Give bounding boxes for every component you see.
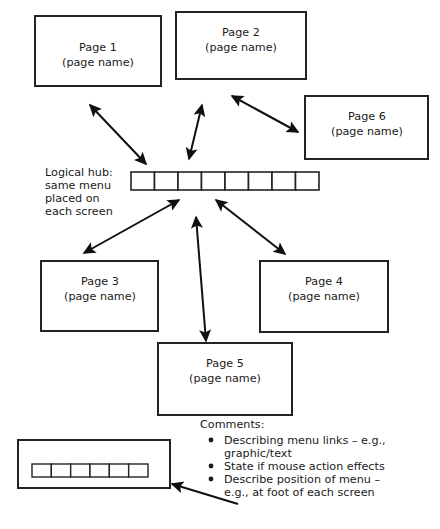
comment-item-3-line-2: e.g., at foot of each screen [224, 486, 375, 499]
hub-menu-cell-8[interactable] [296, 172, 320, 190]
logical-hub-label: Logical hub: same menu placed on each sc… [45, 166, 113, 218]
connector-page2-to-page6 [232, 96, 298, 132]
page4-title: Page 4 [305, 275, 343, 288]
hub-menu-cell-1[interactable] [131, 172, 155, 190]
comments-block: Comments: Describing menu links – e.g., … [200, 418, 386, 499]
screen-menu-cell-3[interactable] [71, 464, 90, 477]
page3-title: Page 3 [81, 275, 119, 288]
page1-subtitle: (page name) [62, 56, 134, 69]
page5-title: Page 5 [206, 357, 244, 370]
screen-menu-cell-4[interactable] [90, 464, 109, 477]
page-box-page5[interactable]: Page 5 (page name) [158, 343, 292, 415]
hub-menu-cell-5[interactable] [225, 172, 249, 190]
hub-menu-cell-2[interactable] [155, 172, 179, 190]
page-box-page4[interactable]: Page 4 (page name) [260, 261, 388, 332]
page4-subtitle: (page name) [288, 290, 360, 303]
hub-label-line-1: Logical hub: [45, 166, 113, 179]
page-box-page3[interactable]: Page 3 (page name) [41, 261, 158, 331]
page-box-page1[interactable]: Page 1 (page name) [35, 16, 161, 86]
page6-subtitle: (page name) [331, 125, 403, 138]
hub-menu-cell-7[interactable] [272, 172, 296, 190]
screen-menu-cell-6[interactable] [129, 464, 148, 477]
page6-title: Page 6 [348, 110, 386, 123]
comment-item-3-line-1: Describe position of menu – [224, 473, 380, 486]
page2-title: Page 2 [222, 26, 260, 39]
connector-hub-to-page2 [189, 105, 202, 159]
page2-subtitle: (page name) [205, 41, 277, 54]
comment-item-1-line-1: Describing menu links – e.g., [224, 434, 386, 447]
screen-example-box[interactable] [18, 440, 170, 488]
comment-item-2-line-1: State if mouse action effects [224, 460, 385, 473]
page-box-page6[interactable]: Page 6 (page name) [305, 96, 428, 159]
hub-menu-cell-3[interactable] [178, 172, 202, 190]
hub-label-line-2: same menu [45, 179, 111, 192]
screen-example-menu-bar[interactable] [32, 464, 148, 477]
connector-hub-to-page1 [90, 105, 146, 164]
comment-item-1-line-2: graphic/text [224, 447, 292, 460]
hub-menu-cell-6[interactable] [249, 172, 273, 190]
hub-label-line-3: placed on [45, 192, 100, 205]
page-box-page2[interactable]: Page 2 (page name) [176, 12, 306, 79]
bullet-icon [209, 438, 214, 443]
comments-heading: Comments: [200, 418, 264, 431]
page3-subtitle: (page name) [64, 290, 136, 303]
page1-title: Page 1 [79, 41, 117, 54]
bullet-icon [209, 477, 214, 482]
screen-menu-cell-1[interactable] [32, 464, 51, 477]
connector-hub-to-page5 [196, 217, 206, 341]
connector-hub-to-page4 [216, 200, 285, 254]
screen-menu-cell-5[interactable] [109, 464, 128, 477]
hub-menu-bar[interactable] [131, 172, 319, 190]
diagram-canvas: Page 1 (page name) Page 2 (page name) Pa… [0, 0, 440, 529]
hub-menu-cell-4[interactable] [202, 172, 226, 190]
site-map-diagram: Page 1 (page name) Page 2 (page name) Pa… [0, 0, 440, 529]
page5-subtitle: (page name) [189, 372, 261, 385]
screen-menu-cell-2[interactable] [51, 464, 70, 477]
hub-label-line-4: each screen [45, 205, 113, 218]
bullet-icon [209, 464, 214, 469]
